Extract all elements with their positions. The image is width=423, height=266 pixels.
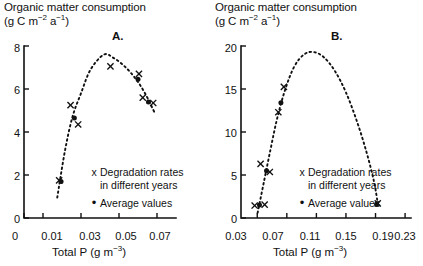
data-point-degradation-rate [140, 95, 146, 101]
fit-curve-dotted [258, 52, 378, 213]
data-point-degradation-rate [75, 121, 81, 127]
data-point-degradation-rate [107, 63, 113, 69]
panel-a: Organic matter consumption (g C m−2 a−1)… [0, 0, 211, 266]
data-point-average-value [278, 100, 283, 105]
data-point-degradation-rate [252, 202, 258, 208]
data-point-average-value [264, 168, 269, 173]
data-point-degradation-rate [136, 71, 142, 77]
panel-b: Organic matter consumption (g C m−2 a−1)… [211, 0, 423, 266]
data-point-degradation-rate [150, 100, 156, 106]
data-point-average-value [257, 203, 262, 208]
data-point-average-value [59, 179, 64, 184]
axis-lines [241, 46, 411, 218]
panel-b-plot-area [211, 0, 423, 266]
data-point-average-value [374, 202, 379, 207]
axis-lines [24, 46, 176, 218]
data-point-degradation-rate [67, 102, 73, 108]
data-point-degradation-rate [262, 202, 268, 208]
figure-container: Organic matter consumption (g C m−2 a−1)… [0, 0, 423, 266]
panel-a-plot-area [0, 0, 211, 266]
data-point-degradation-rate [257, 161, 263, 167]
data-point-average-value [146, 99, 151, 104]
data-point-average-value [136, 77, 141, 82]
data-point-average-value [72, 116, 77, 121]
